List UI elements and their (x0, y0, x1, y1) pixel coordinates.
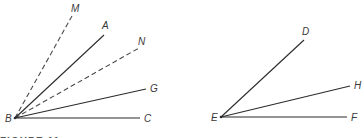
point-label-h: H (354, 80, 362, 91)
point-label-m: M (71, 3, 80, 14)
left-angle-figure: MANGCB (5, 3, 158, 124)
ray-eh (221, 86, 350, 117)
point-label-d: D (302, 26, 309, 37)
ray-bg (15, 89, 146, 118)
figure-caption: FIGURE 11 (0, 136, 60, 138)
angle-diagram: MANGCB DHFE FIGURE 11 (0, 0, 364, 138)
point-label-g: G (150, 83, 158, 94)
vertex-point-b (14, 117, 17, 120)
vertex-label-b: B (5, 113, 12, 124)
vertex-label-e: E (211, 112, 218, 123)
vertex-point-e (220, 116, 223, 119)
right-angle-figure: DHFE (211, 26, 362, 123)
ray-bm (15, 16, 72, 118)
ray-ba (15, 35, 104, 118)
ray-bn (15, 48, 139, 118)
ray-ed (221, 40, 304, 117)
point-label-c: C (144, 113, 152, 124)
point-label-f: F (351, 112, 358, 123)
point-label-n: N (138, 36, 146, 47)
point-label-a: A (101, 20, 109, 31)
